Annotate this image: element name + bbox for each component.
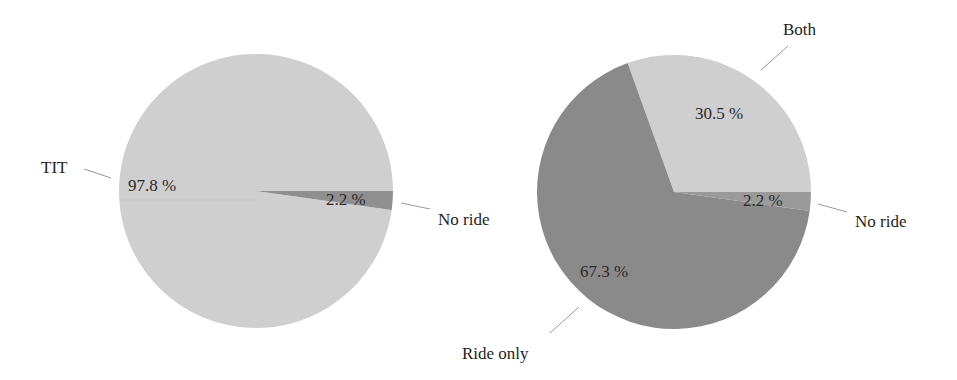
label-ride-only: Ride only — [462, 344, 529, 363]
pie-charts: TIT 97.8 % No ride 2.2 % Both 30.5 % No … — [0, 0, 957, 380]
pct-no-ride: 2.2 % — [743, 191, 783, 210]
leader-line-tit — [84, 169, 111, 178]
label-both: Both — [783, 20, 817, 39]
pct-no-ride: 2.2 % — [326, 190, 366, 209]
leader-line-both — [761, 46, 788, 70]
right-pie: Both 30.5 % No ride 2.2 % Ride only 67.3… — [462, 20, 906, 363]
label-no-ride: No ride — [855, 212, 906, 231]
label-tit: TIT — [41, 158, 68, 177]
pct-ride-only: 67.3 % — [580, 262, 628, 281]
left-pie: TIT 97.8 % No ride 2.2 % — [41, 54, 489, 328]
pct-tit: 97.8 % — [128, 176, 176, 195]
label-no-ride: No ride — [438, 210, 489, 229]
pct-both: 30.5 % — [695, 104, 743, 123]
leader-line-no-ride — [818, 204, 847, 212]
leader-line-no-ride — [401, 203, 430, 209]
leader-line-ride-only — [550, 307, 579, 333]
